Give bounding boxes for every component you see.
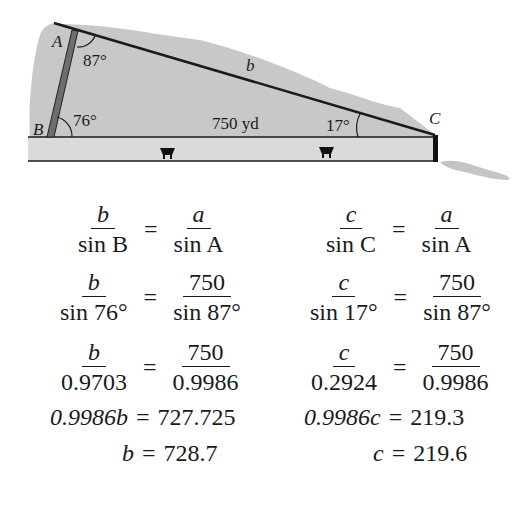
equals-sign: =	[393, 354, 407, 381]
rhs: 727.725	[158, 404, 236, 431]
left-eq-4: 0.9986b = 727.725	[50, 404, 236, 431]
vertex-b-label: B	[33, 120, 44, 139]
post-c	[433, 135, 438, 162]
equals-sign: =	[142, 440, 156, 467]
denominator: 0.9986	[167, 367, 245, 397]
numerator: b	[91, 200, 115, 229]
equals-sign: =	[392, 440, 406, 467]
vertex-a-label: A	[51, 32, 63, 51]
road	[28, 137, 438, 161]
denominator: sin C	[320, 229, 382, 259]
vertex-c-label: C	[429, 109, 441, 128]
angle-c-label: 17°	[326, 116, 350, 135]
side-b-label: b	[246, 56, 255, 75]
left-eq-5: b = 728.7	[122, 440, 218, 467]
lhs: 0.9986c	[304, 404, 381, 431]
distance-label: 750 yd	[212, 114, 259, 133]
numerator: c	[333, 338, 356, 367]
denominator: sin 87°	[417, 297, 497, 327]
rhs: 219.3	[410, 404, 464, 431]
lhs: c	[373, 440, 384, 467]
denominator: 0.9703	[55, 367, 133, 397]
rhs: 219.6	[413, 440, 467, 467]
equals-sign: =	[136, 404, 150, 431]
equals-sign: =	[392, 216, 406, 243]
lhs: b	[122, 440, 134, 467]
right-eq-5: c = 219.6	[373, 440, 467, 467]
denominator: sin 17°	[304, 297, 384, 327]
numerator: a	[187, 200, 211, 229]
numerator: 750	[433, 268, 481, 297]
numerator: 750	[432, 338, 480, 367]
right-eq-3: c0.2924 = 7500.9986	[303, 338, 497, 397]
left-eq-1: bsin B = asin A	[70, 200, 232, 259]
denominator: sin 76°	[54, 297, 134, 327]
rock-shape	[440, 161, 510, 180]
equals-sign: =	[143, 354, 157, 381]
denominator: 0.2924	[305, 367, 383, 397]
equals-sign: =	[389, 404, 403, 431]
numerator: 750	[183, 268, 231, 297]
right-eq-4: 0.9986c = 219.3	[304, 404, 464, 431]
numerator: c	[332, 268, 355, 297]
triangle-diagram: A B C 87° 76° 17° b 750 yd	[0, 0, 512, 180]
right-eq-1: csin C = asin A	[318, 200, 480, 259]
angle-b-label: 76°	[73, 111, 97, 130]
numerator: a	[435, 200, 459, 229]
numerator: 750	[182, 338, 230, 367]
right-eq-2: csin 17° = 750sin 87°	[302, 268, 499, 327]
rhs: 728.7	[164, 440, 218, 467]
denominator: sin A	[416, 229, 478, 259]
denominator: sin A	[168, 229, 230, 259]
numerator: c	[340, 200, 363, 229]
numerator: b	[82, 268, 106, 297]
numerator: b	[82, 338, 106, 367]
denominator: sin 87°	[167, 297, 247, 327]
lhs: 0.9986b	[50, 404, 128, 431]
left-eq-3: b0.9703 = 7500.9986	[53, 338, 247, 397]
denominator: 0.9986	[417, 367, 495, 397]
denominator: sin B	[72, 229, 134, 259]
equals-sign: =	[144, 216, 158, 243]
left-eq-2: bsin 76° = 750sin 87°	[52, 268, 249, 327]
equals-sign: =	[394, 284, 408, 311]
angle-a-label: 87°	[83, 51, 107, 70]
equals-sign: =	[144, 284, 158, 311]
